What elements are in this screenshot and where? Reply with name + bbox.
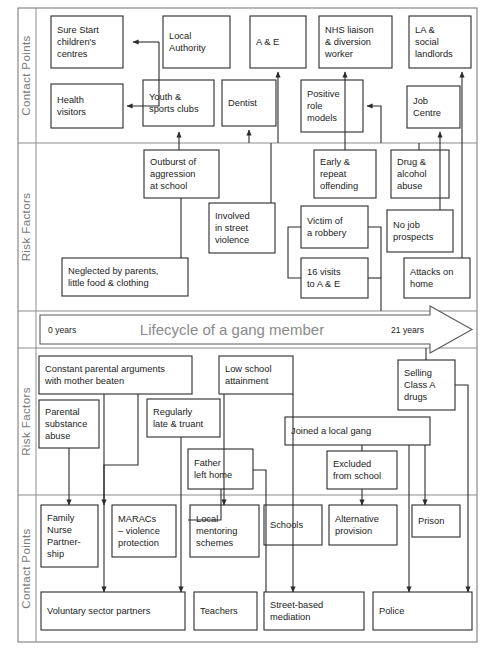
node-street-based-mediation[interactable]: Street-basedmediation [264, 592, 364, 630]
node-label-neglected-by-parents-1: little food & clothing [68, 278, 149, 288]
node-box-neglected-by-parents[interactable] [62, 258, 188, 296]
conn-positive-role [367, 106, 381, 143]
node-label-sixteen-visits-to-ae-1: to A & E [307, 279, 340, 289]
node-label-regularly-late-truant-0: Regularly [153, 407, 193, 417]
node-health-visitors[interactable]: Healthvisitors [51, 84, 123, 128]
conn-selling-drugs-right [455, 385, 468, 592]
node-label-low-school-attainment-1: attainment [225, 376, 269, 386]
node-neglected-by-parents[interactable]: Neglected by parents,little food & cloth… [62, 258, 188, 296]
node-label-involved-street-violence-0: Involved [215, 211, 250, 221]
node-label-voluntary-sector-partners-0: Voluntary sector partners [47, 606, 151, 616]
node-regularly-late-truant[interactable]: Regularlylate & truant [147, 399, 220, 437]
node-box-excluded-from-school[interactable] [327, 451, 397, 489]
node-outburst-aggression[interactable]: Outburst ofaggressionat school [144, 150, 219, 198]
node-box-attacks-on-home[interactable] [404, 258, 470, 298]
node-box-father-left-home[interactable] [188, 449, 253, 489]
node-box-local-authority[interactable] [163, 16, 230, 68]
node-attacks-on-home[interactable]: Attacks onhome [404, 258, 470, 298]
node-label-maracs-0: MARACs [118, 514, 157, 524]
band-label-contact-top: Contact Points [20, 35, 32, 115]
node-label-youth-sports-clubs-0: Youth & [149, 92, 182, 102]
node-label-schools-0: Schools [270, 520, 303, 530]
node-police[interactable]: Police [373, 592, 472, 630]
node-parental-substance-abuse[interactable]: Parentalsubstanceabuse [39, 400, 99, 448]
node-box-regularly-late-truant[interactable] [147, 399, 220, 437]
node-box-constant-parental-arguments[interactable] [39, 356, 192, 394]
node-box-youth-sports-clubs[interactable] [143, 80, 214, 126]
node-voluntary-sector-partners[interactable]: Voluntary sector partners [41, 592, 185, 630]
node-label-dentist-0: Dentist [228, 98, 257, 108]
node-positive-role-models[interactable]: Positiverolemodels [301, 80, 363, 132]
node-box-low-school-attainment[interactable] [219, 356, 293, 394]
conn-victim-right [368, 227, 381, 311]
node-nhs-liaison[interactable]: NHS liaison& diversionworker [319, 16, 392, 68]
lifecycle-title: Lifecycle of a gang member [140, 321, 324, 338]
node-early-repeat-offending[interactable]: Early &repeatoffending [314, 150, 376, 198]
node-label-sixteen-visits-to-ae-0: 16 visits [307, 267, 341, 277]
node-label-involved-street-violence-1: in street [215, 223, 248, 233]
node-label-parental-substance-abuse-2: abuse [45, 431, 70, 441]
node-constant-parental-arguments[interactable]: Constant parental argumentswith mother b… [39, 356, 192, 394]
node-label-street-based-mediation-1: mediation [270, 612, 310, 622]
node-label-neglected-by-parents-0: Neglected by parents, [68, 266, 158, 276]
node-no-job-prospects[interactable]: No jobprospects [387, 210, 453, 252]
node-label-early-repeat-offending-0: Early & [320, 157, 351, 167]
node-involved-street-violence[interactable]: Involvedin streetviolence [209, 203, 275, 253]
node-label-a-and-e-0: A & E [256, 37, 279, 47]
node-label-drug-alcohol-abuse-1: alcohol [397, 169, 426, 179]
node-label-parental-substance-abuse-1: substance [45, 419, 87, 429]
node-label-involved-street-violence-2: violence [215, 235, 249, 245]
node-label-victim-of-a-robbery-1: a robbery [307, 228, 347, 238]
node-box-sixteen-visits-to-ae[interactable] [301, 258, 368, 298]
node-label-no-job-prospects-0: No job [393, 220, 420, 230]
node-label-local-mentoring-schemes-2: schemes [196, 538, 234, 548]
band-label-risk-top: Risk Factors [20, 193, 32, 262]
node-box-street-based-mediation[interactable] [264, 592, 364, 630]
node-sure-start[interactable]: Sure Startchildren'scentres [51, 16, 123, 68]
node-label-positive-role-models-2: models [307, 113, 337, 123]
node-family-nurse-partnership[interactable]: FamilyNursePartner-ship [41, 505, 98, 567]
node-label-drug-alcohol-abuse-0: Drug & [397, 157, 427, 167]
node-father-left-home[interactable]: Fatherleft home [188, 449, 253, 489]
node-dentist[interactable]: Dentist [222, 80, 276, 126]
node-la-social-landlords[interactable]: LA &sociallandlords [409, 16, 471, 68]
node-box-victim-of-a-robbery[interactable] [301, 206, 368, 248]
node-label-police-0: Police [379, 606, 404, 616]
node-label-joined-a-local-gang-0: Joined a local gang [291, 426, 371, 436]
node-box-health-visitors[interactable] [51, 84, 123, 128]
node-prison[interactable]: Prison [412, 505, 460, 537]
node-box-no-job-prospects[interactable] [387, 210, 453, 252]
node-label-outburst-aggression-1: aggression [150, 169, 195, 179]
node-excluded-from-school[interactable]: Excludedfrom school [327, 451, 397, 489]
node-label-regularly-late-truant-1: late & truant [153, 419, 204, 429]
node-label-local-authority-1: Authority [169, 43, 206, 53]
node-label-sure-start-1: children's [57, 37, 96, 47]
node-low-school-attainment[interactable]: Low schoolattainment [219, 356, 293, 394]
node-label-positive-role-models-1: role [307, 101, 323, 111]
node-label-maracs-1: – violence [118, 526, 160, 536]
node-label-outburst-aggression-0: Outburst of [150, 157, 196, 167]
node-job-centre[interactable]: JobCentre [407, 86, 460, 128]
node-victim-of-a-robbery[interactable]: Victim ofa robbery [301, 206, 368, 248]
node-box-job-centre[interactable] [407, 86, 460, 128]
node-label-family-nurse-partnership-1: Nurse [47, 525, 72, 535]
node-label-constant-parental-arguments-1: with mother beaten [44, 376, 124, 386]
node-teachers[interactable]: Teachers [194, 592, 257, 630]
node-selling-class-a-drugs[interactable]: SellingClass Adrugs [398, 360, 455, 410]
node-label-la-social-landlords-1: social [415, 37, 439, 47]
node-label-sure-start-2: centres [57, 49, 88, 59]
node-local-authority[interactable]: LocalAuthority [163, 16, 230, 68]
node-sixteen-visits-to-ae[interactable]: 16 visitsto A & E [301, 258, 368, 298]
node-label-street-based-mediation-0: Street-based [270, 600, 323, 610]
node-label-father-left-home-1: left home [194, 470, 232, 480]
node-label-nhs-liaison-0: NHS liaison [325, 25, 374, 35]
conn-constant-args-down [104, 394, 138, 505]
node-maracs[interactable]: MARACs– violenceprotection [112, 505, 176, 557]
node-local-mentoring-schemes[interactable]: Localmentoringschemes [190, 505, 259, 557]
node-joined-a-local-gang[interactable]: Joined a local gang [285, 417, 430, 445]
node-youth-sports-clubs[interactable]: Youth &sports clubs [143, 80, 214, 126]
node-alternative-provision[interactable]: Alternativeprovision [329, 505, 397, 545]
node-box-alternative-provision[interactable] [329, 505, 397, 545]
node-a-and-e[interactable]: A & E [250, 16, 306, 68]
node-label-early-repeat-offending-2: offending [320, 181, 358, 191]
